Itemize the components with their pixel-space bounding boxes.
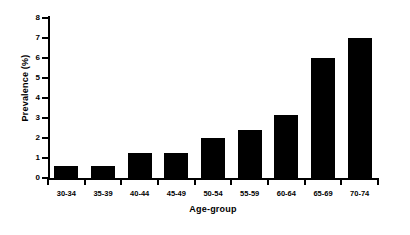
bar-40-44 (128, 153, 152, 178)
y-tick-label-5: 5 (26, 74, 40, 82)
bar-chart-figure: Prevalence (%) 012345678 30-3435-3940-44… (0, 0, 410, 235)
x-tick-label-70-74: 70-74 (337, 189, 383, 198)
x-tick-4 (194, 180, 196, 185)
x-tick-6 (267, 180, 269, 185)
y-tick-label-7: 7 (26, 34, 40, 42)
x-tick-0 (47, 180, 49, 185)
bar-35-39 (91, 166, 115, 178)
bar-55-59 (238, 130, 262, 178)
bar-65-69 (311, 58, 335, 178)
bar-70-74 (348, 38, 372, 178)
bar-30-34 (54, 166, 78, 178)
y-tick-label-0: 0 (26, 174, 40, 182)
bar-50-54 (201, 138, 225, 178)
x-tick-1 (84, 180, 86, 185)
x-tick-9 (377, 180, 379, 185)
x-tick-8 (340, 180, 342, 185)
x-tick-5 (230, 180, 232, 185)
x-tick-7 (304, 180, 306, 185)
x-axis-title: Age-group (48, 204, 378, 214)
y-axis-title: Prevalence (%) (18, 0, 32, 178)
bar-45-49 (164, 153, 188, 178)
bar-60-64 (274, 115, 298, 178)
y-tick-label-8: 8 (26, 14, 40, 22)
y-tick-label-6: 6 (26, 54, 40, 62)
plot-area (48, 18, 378, 178)
x-axis-line (47, 178, 379, 180)
x-tick-2 (120, 180, 122, 185)
y-tick-label-2: 2 (26, 134, 40, 142)
y-tick-label-3: 3 (26, 114, 40, 122)
y-tick-label-4: 4 (26, 94, 40, 102)
y-tick-label-1: 1 (26, 154, 40, 162)
x-tick-3 (157, 180, 159, 185)
